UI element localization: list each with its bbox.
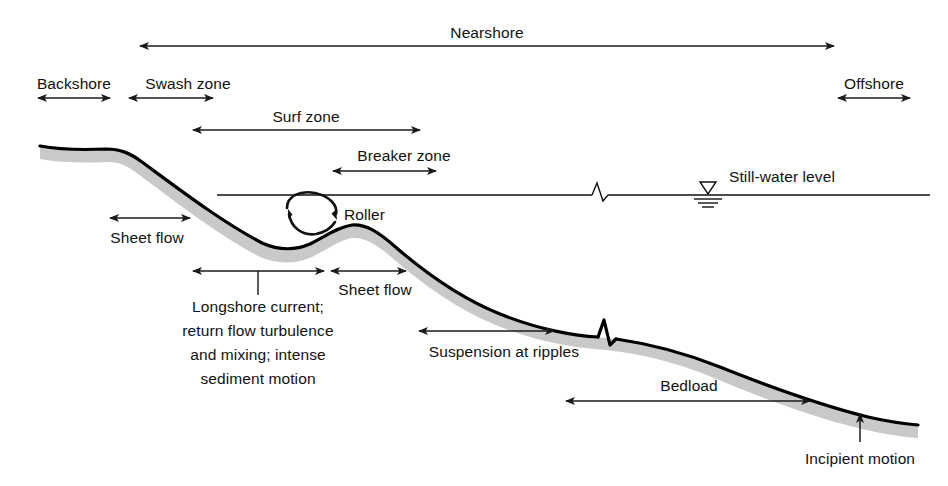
backshore-label: Backshore	[37, 75, 111, 92]
coastal-profile-diagram: Nearshore Backshore Swash zone Offshore …	[0, 0, 948, 486]
bedload-label: Bedload	[660, 377, 718, 394]
swash-zone-label: Swash zone	[145, 75, 230, 92]
nearshore-label: Nearshore	[450, 24, 523, 41]
incipient-motion-label: Incipient motion	[805, 450, 915, 467]
surf-zone-label: Surf zone	[272, 108, 339, 125]
roller-arc-lower	[289, 214, 335, 234]
roller-label: Roller	[344, 206, 385, 223]
longshore-label-line-3: and mixing; intense	[190, 346, 325, 363]
longshore-label-line-1: Longshore current;	[192, 298, 324, 315]
still-water-level-label: Still-water level	[729, 168, 835, 185]
breaker-zone-label: Breaker zone	[357, 147, 450, 164]
offshore-label: Offshore	[844, 75, 904, 92]
longshore-label-line-4: sediment motion	[200, 370, 315, 387]
sand-body	[40, 146, 918, 438]
sheet-flow-upper-label: Sheet flow	[110, 229, 184, 246]
roller-arrowhead-right	[331, 209, 340, 220]
water-level-triangle-icon	[700, 182, 716, 194]
suspension-at-ripples-label: Suspension at ripples	[429, 343, 579, 360]
break-symbol-water	[592, 183, 608, 201]
sheet-flow-lower-label: Sheet flow	[338, 281, 412, 298]
longshore-label-line-2: return flow turbulence	[182, 322, 333, 339]
diagram-canvas: Nearshore Backshore Swash zone Offshore …	[0, 0, 948, 486]
